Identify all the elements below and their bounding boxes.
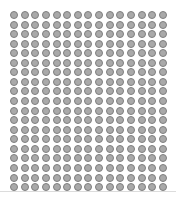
baseline-divider [0, 191, 176, 192]
dot-icon [84, 68, 92, 76]
dot-icon [42, 135, 50, 143]
dot-icon [31, 21, 39, 29]
dot-icon [159, 49, 167, 57]
dot-icon [148, 40, 156, 48]
dot-icon [10, 107, 18, 115]
dot-icon [95, 126, 103, 134]
dot-icon [63, 49, 71, 57]
dot-icon [116, 49, 124, 57]
dot-icon [31, 135, 39, 143]
dot-icon [148, 59, 156, 67]
dot-icon [138, 11, 146, 19]
dot-icon [10, 145, 18, 153]
dot-icon [148, 11, 156, 19]
dot-icon [148, 164, 156, 172]
dot-icon [148, 145, 156, 153]
dot-icon [42, 164, 50, 172]
dot-icon [127, 145, 135, 153]
dot-icon [53, 11, 61, 19]
dot-icon [31, 68, 39, 76]
dot-icon [159, 145, 167, 153]
dot-icon [116, 107, 124, 115]
dot-icon [84, 78, 92, 86]
dot-icon [116, 116, 124, 124]
dot-icon [42, 154, 50, 162]
dot-icon [148, 30, 156, 38]
dot-icon [84, 145, 92, 153]
dot-icon [21, 164, 29, 172]
dot-icon [106, 40, 114, 48]
dot-icon [21, 174, 29, 182]
dot-grid [0, 0, 176, 198]
dot-icon [10, 11, 18, 19]
dot-icon [53, 174, 61, 182]
dot-icon [63, 135, 71, 143]
dot-icon [53, 145, 61, 153]
dot-icon [74, 174, 82, 182]
dot-icon [53, 78, 61, 86]
dot-icon [21, 21, 29, 29]
dot-icon [95, 21, 103, 29]
dot-icon [116, 11, 124, 19]
dot-icon [84, 135, 92, 143]
dot-icon [95, 59, 103, 67]
dot-icon [138, 68, 146, 76]
dot-icon [116, 78, 124, 86]
dot-icon [74, 97, 82, 105]
dot-icon [31, 174, 39, 182]
dot-icon [159, 78, 167, 86]
dot-icon [127, 78, 135, 86]
dot-icon [95, 107, 103, 115]
dot-icon [95, 135, 103, 143]
dot-icon [116, 145, 124, 153]
dot-icon [148, 49, 156, 57]
dot-icon [138, 126, 146, 134]
dot-icon [159, 40, 167, 48]
dot-icon [138, 87, 146, 95]
dot-icon [148, 21, 156, 29]
dot-icon [53, 87, 61, 95]
dot-icon [10, 126, 18, 134]
dot-icon [127, 59, 135, 67]
dot-icon [21, 183, 29, 191]
dot-icon [84, 21, 92, 29]
dot-icon [84, 183, 92, 191]
dot-icon [74, 183, 82, 191]
dot-icon [138, 164, 146, 172]
dot-icon [127, 116, 135, 124]
dot-icon [95, 97, 103, 105]
dot-icon [138, 97, 146, 105]
dot-icon [10, 174, 18, 182]
dot-icon [63, 145, 71, 153]
dot-icon [84, 107, 92, 115]
dot-icon [116, 164, 124, 172]
dot-icon [127, 68, 135, 76]
dot-icon [106, 135, 114, 143]
dot-icon [53, 97, 61, 105]
dot-icon [127, 87, 135, 95]
dot-icon [10, 78, 18, 86]
dot-icon [31, 183, 39, 191]
dot-icon [53, 68, 61, 76]
dot-icon [84, 164, 92, 172]
dot-icon [10, 49, 18, 57]
dot-icon [159, 59, 167, 67]
dot-icon [63, 154, 71, 162]
dot-icon [106, 107, 114, 115]
dot-icon [138, 183, 146, 191]
dot-icon [148, 116, 156, 124]
dot-icon [53, 126, 61, 134]
dot-icon [21, 68, 29, 76]
dot-icon [21, 154, 29, 162]
dot-icon [42, 11, 50, 19]
dot-icon [31, 107, 39, 115]
dot-icon [106, 116, 114, 124]
dot-icon [63, 30, 71, 38]
dot-icon [106, 145, 114, 153]
dot-icon [21, 107, 29, 115]
dot-icon [159, 183, 167, 191]
dot-icon [159, 97, 167, 105]
dot-icon [95, 30, 103, 38]
dot-icon [53, 164, 61, 172]
dot-icon [21, 40, 29, 48]
